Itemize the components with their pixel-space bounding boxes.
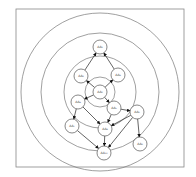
- graph-node-n2: AA₂: [74, 69, 88, 83]
- edge-n0-n5: [105, 97, 110, 102]
- graph-node-n8: AA₈: [98, 122, 112, 136]
- node-label: AA₅: [111, 106, 117, 110]
- edge-n0-n3: [105, 80, 113, 87]
- node-label: AA₁: [97, 45, 103, 49]
- graph-node-n4: AA₄: [71, 95, 85, 109]
- node-label: AA₀: [97, 90, 103, 94]
- node-label: AA₇: [69, 124, 75, 128]
- edge-n5-n8: [108, 114, 111, 122]
- node-label: AA₆: [134, 110, 140, 114]
- graph-node-n10: AA₁₀: [97, 146, 111, 160]
- graph-node-n5: AA₅: [107, 101, 121, 115]
- edge-n5-n6: [121, 109, 130, 111]
- graph-node-n3: AA₃: [111, 68, 125, 82]
- node-label: AA₈: [102, 127, 108, 131]
- edge-n2-n1: [85, 53, 96, 70]
- node-label: AA₄: [75, 100, 81, 104]
- node-label: AA₉: [137, 142, 143, 146]
- edge-n6-n9: [138, 119, 140, 137]
- node-layer: AA₀AA₁AA₂AA₃AA₄AA₅AA₆AA₇AA₈AA₉AA₁₀: [65, 40, 147, 160]
- node-label: AA₁₀: [100, 151, 108, 155]
- edge-n3-n1: [104, 53, 114, 69]
- edge-n4-n8: [83, 107, 100, 124]
- concentric-graph-diagram: AA₀AA₁AA₂AA₃AA₄AA₅AA₆AA₇AA₈AA₉AA₁₀: [0, 0, 196, 177]
- graph-node-n1: AA₁: [93, 40, 107, 54]
- node-label: AA₃: [115, 73, 121, 77]
- graph-node-n9: AA₉: [133, 137, 147, 151]
- graph-node-n6: AA₆: [130, 105, 144, 119]
- graph-node-n0: AA₀: [93, 85, 107, 99]
- node-label: AA₂: [78, 74, 84, 78]
- edge-n6-n8: [111, 115, 131, 125]
- edge-n7-n10: [77, 131, 98, 149]
- graph-node-n7: AA₇: [65, 119, 79, 133]
